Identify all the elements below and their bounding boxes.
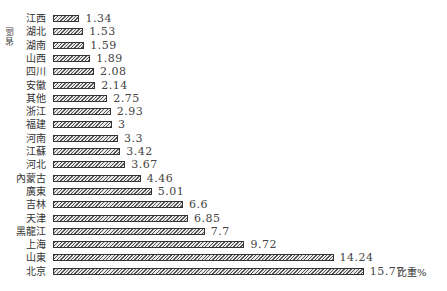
category-label: 江西 [26,12,46,25]
value-label: 2.93 [117,105,144,118]
bar-row: 浙江2.93 [0,105,447,118]
bar-row: 湖南1.59 [0,39,447,52]
bar-row: 廣東5.01 [0,185,447,198]
bar [53,241,244,248]
category-label: 江蘇 [26,145,46,158]
value-label: 2.14 [101,79,128,92]
bar [53,42,84,49]
bar-row: 內蒙古4.46 [0,172,447,185]
value-label: 3.67 [131,158,158,171]
category-label: 河南 [26,132,46,145]
bar [53,268,364,275]
bar [53,148,120,155]
value-label: 2.08 [100,65,127,78]
bar-row: 天津6.85 [0,212,447,225]
category-label: 四川 [26,65,46,78]
category-label: 河北 [26,158,46,171]
category-label: 內蒙古 [16,172,46,185]
bar [53,161,125,168]
bar-row: 福建3 [0,118,447,131]
category-label: 山西 [26,52,46,65]
category-label: 黑龍江 [16,225,46,238]
bar [53,95,107,102]
category-label: 湖北 [26,25,46,38]
category-label: 浙江 [26,105,46,118]
bar-row: 江蘇3.42 [0,145,447,158]
bar [53,15,79,22]
bar-row: 黑龍江7.7 [0,225,447,238]
value-label: 1.53 [89,25,116,38]
bar-row: 河南3.3 [0,132,447,145]
category-label: 山東 [26,251,46,264]
value-label: 7.7 [211,225,230,238]
value-label: 4.46 [147,172,174,185]
bar-row: 其他2.75 [0,92,447,105]
value-label: 5.01 [158,185,185,198]
bar-row: 湖北1.53 [0,25,447,38]
value-label: 1.59 [90,39,117,52]
bar-row: 山東14.24 [0,251,447,264]
value-label: 3.3 [124,132,143,145]
value-label: 1.89 [96,52,123,65]
bar [53,228,205,235]
category-label: 安徽 [26,79,46,92]
value-label: 14.24 [340,251,374,264]
bar [53,121,112,128]
value-label: 3 [118,118,126,131]
category-label: 廣東 [26,185,46,198]
bar [53,215,188,222]
bar-row: 山西1.89 [0,52,447,65]
bar-row: 吉林6.6 [0,198,447,211]
category-label: 其他 [26,92,46,105]
bar [53,188,152,195]
value-label: 2.75 [113,92,140,105]
bar [53,175,141,182]
bar-row: 安徽2.14 [0,79,447,92]
bar [53,68,94,75]
category-label: 天津 [26,212,46,225]
bar-row: 四川2.08 [0,65,447,78]
category-label: 吉林 [26,198,46,211]
bar-chart: 省區 江西1.34湖北1.53湖南1.59山西1.89四川2.08安徽2.14其… [0,0,447,291]
value-label: 3.42 [126,145,153,158]
value-label: 1.34 [85,12,112,25]
bar [53,201,183,208]
category-label: 福建 [26,118,46,131]
bar [53,28,83,35]
bar [53,254,334,261]
value-label: 6.85 [194,212,221,225]
category-label: 湖南 [26,39,46,52]
value-label: 6.6 [189,198,208,211]
bar [53,108,111,115]
bar-row: 北京15.77 [0,265,447,278]
bar-row: 江西1.34 [0,12,447,25]
bar-row: 河北3.67 [0,158,447,171]
category-label: 上海 [26,238,46,251]
bar [53,82,95,89]
value-label: 9.72 [250,238,277,251]
bar-row: 上海9.72 [0,238,447,251]
bar [53,55,90,62]
category-label: 北京 [26,265,46,278]
bar [53,135,118,142]
x-axis-label: 比重% [397,264,427,279]
